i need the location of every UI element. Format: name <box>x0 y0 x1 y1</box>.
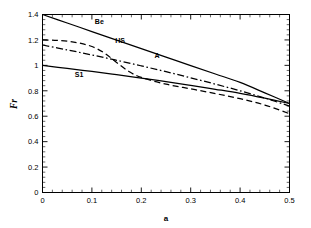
y-tick-label: 1.2 <box>28 36 38 45</box>
major-ticks-group <box>43 15 290 193</box>
x-tick-label: 0.5 <box>284 196 294 205</box>
y-tick-label: 1.4 <box>28 10 38 19</box>
x-tick-label: 0.1 <box>87 196 97 205</box>
x-tick-label: 0 <box>40 196 44 205</box>
y-tick-label: 0.4 <box>28 137 38 146</box>
y-tick-labels: 00.20.40.60.811.21.4 <box>28 10 38 197</box>
x-axis-title: a <box>164 214 169 223</box>
x-tick-label: 0.3 <box>185 196 195 205</box>
y-tick-label: 1 <box>34 61 38 70</box>
curve-be <box>43 15 290 104</box>
chart-figure: 00.10.20.30.40.5 00.20.40.60.811.21.4 Be… <box>0 0 311 228</box>
curve-label-a: A <box>155 52 160 59</box>
curve-label-hs: HS <box>115 37 125 44</box>
curves-group <box>43 15 290 114</box>
curve-labels-group: BeHSAS1 <box>75 18 160 78</box>
x-tick-label: 0.4 <box>235 196 245 205</box>
y-tick-label: 0.8 <box>28 87 38 96</box>
y-tick-label: 0.2 <box>28 163 38 172</box>
y-tick-label: 0.6 <box>28 112 38 121</box>
plot-frame <box>43 15 290 193</box>
curve-label-s1: S1 <box>75 71 84 78</box>
minor-ticks-group <box>43 15 290 193</box>
chart-svg: 00.10.20.30.40.5 00.20.40.60.811.21.4 Be… <box>0 0 311 228</box>
x-tick-labels: 00.10.20.30.40.5 <box>40 196 294 205</box>
y-tick-label: 0 <box>34 188 38 197</box>
curve-label-be: Be <box>95 18 104 25</box>
x-tick-label: 0.2 <box>136 196 146 205</box>
y-axis-title: Fr <box>9 99 19 110</box>
